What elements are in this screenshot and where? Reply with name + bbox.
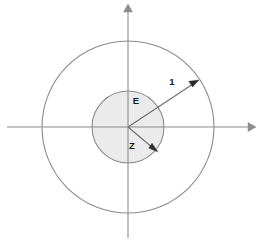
horizontal-axis-arrowhead-icon [248, 123, 256, 132]
annulus-diagram: 1 Z E [0, 0, 260, 245]
inner-radius-label: Z [129, 140, 135, 151]
outer-radius-label: 1 [169, 76, 175, 87]
region-label-e: E [133, 95, 139, 106]
diagram-canvas: 1 Z E [0, 0, 260, 245]
vertical-axis-arrowhead-icon [124, 4, 133, 12]
